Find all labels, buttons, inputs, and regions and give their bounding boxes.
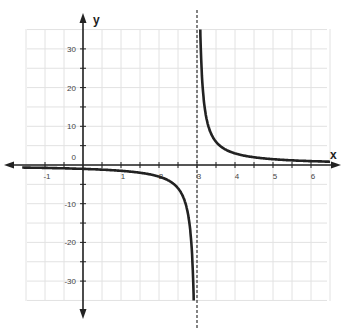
x-tick-label: 5 <box>273 172 278 181</box>
y-tick-label: 10 <box>67 122 76 131</box>
y-tick-label: -30 <box>64 277 76 286</box>
x-tick-label: -1 <box>43 172 51 181</box>
chart: -11234563020100-10-20-30 y x <box>0 0 355 333</box>
x-tick-label: 1 <box>121 172 126 181</box>
axes <box>4 13 341 319</box>
y-tick-label: -10 <box>64 200 76 209</box>
x-tick-label: 4 <box>235 172 240 181</box>
x-axis-label: x <box>330 148 337 162</box>
curve-left-branch <box>22 168 194 301</box>
x-tick-label: 6 <box>311 172 316 181</box>
y-axis-label: y <box>93 13 100 27</box>
y-tick-label: 20 <box>67 84 76 93</box>
y-tick-label: 30 <box>67 45 76 54</box>
y-tick-label: -20 <box>64 238 76 247</box>
y-tick-label: 0 <box>72 153 77 162</box>
